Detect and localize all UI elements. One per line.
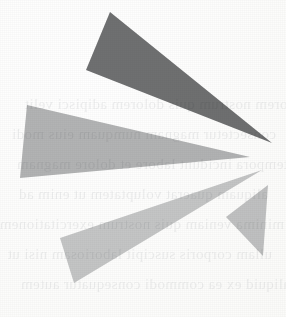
scanned-page: lorem nostrum quis dolorem adipisci veli… <box>0 0 286 317</box>
ray-top-dark <box>86 12 272 143</box>
ray-lower-right-wedge <box>226 185 268 256</box>
converging-rays-logo <box>0 0 286 317</box>
ray-lower-left <box>60 170 262 283</box>
